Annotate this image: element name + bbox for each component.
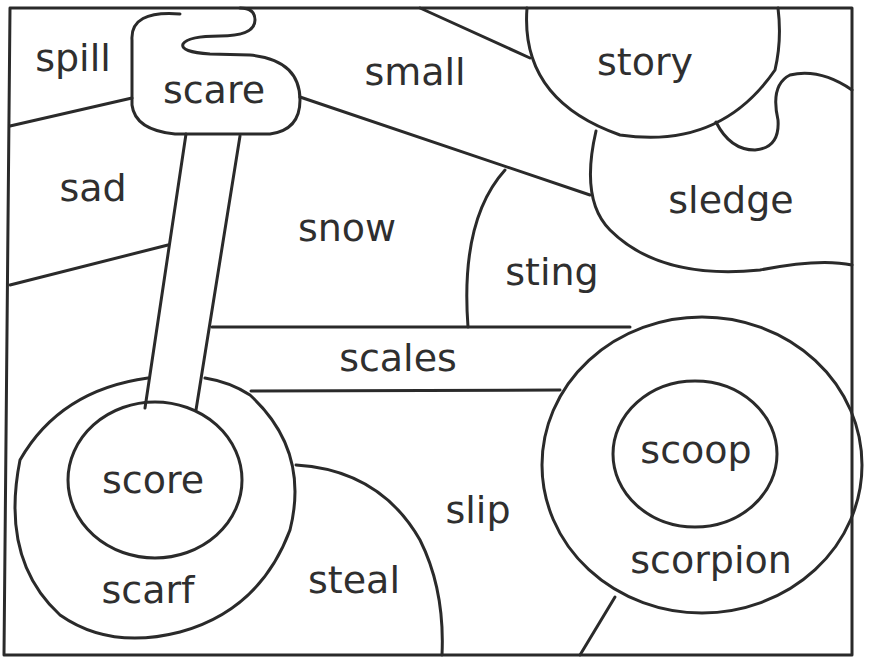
word-slip[interactable]: slip: [445, 491, 510, 529]
word-snow[interactable]: snow: [298, 209, 396, 247]
word-scoop[interactable]: scoop: [640, 431, 751, 469]
word-sad[interactable]: sad: [59, 169, 126, 207]
scales-bottom: [251, 390, 560, 391]
word-small[interactable]: small: [364, 53, 465, 91]
spill-sad-divider: [10, 98, 132, 126]
word-score[interactable]: score: [102, 461, 204, 499]
stem-right: [196, 136, 240, 410]
word-sting[interactable]: sting: [505, 253, 598, 291]
word-steal[interactable]: steal: [308, 561, 400, 599]
word-scales[interactable]: scales: [339, 339, 457, 377]
scorpion-divider: [580, 597, 615, 655]
word-sledge[interactable]: sledge: [668, 181, 793, 219]
word-scorpion[interactable]: scorpion: [630, 541, 792, 579]
coloring-worksheet: spill scare small story sad snow sledge …: [0, 0, 872, 668]
word-story[interactable]: story: [597, 43, 693, 81]
stem-left: [145, 134, 186, 408]
word-scare[interactable]: scare: [163, 71, 265, 109]
sting-region-outline: [467, 170, 505, 327]
word-scarf[interactable]: scarf: [102, 571, 195, 609]
sad-divider: [10, 245, 168, 285]
small-snow-divider: [300, 97, 590, 195]
word-spill[interactable]: spill: [35, 39, 111, 77]
